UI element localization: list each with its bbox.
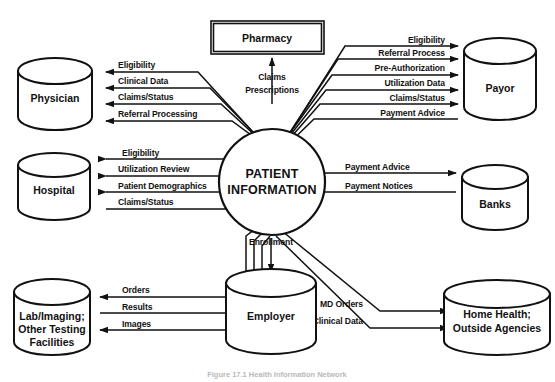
figure-caption: Figure 17.1 Health Information Network [207,370,347,379]
flow-label-homehealth-1: Clinical Data [313,316,364,326]
flow-label-payor-1: Referral Process [378,48,445,58]
flow-label-payor-5: Payment Advice [380,108,445,118]
node-banks[interactable]: Banks [462,165,528,230]
node-hospital[interactable]: Hospital [18,153,90,220]
node-label-physician: Physician [30,92,79,104]
node-label-lab-line3: Facilities [30,336,75,348]
flow-label-banks-1: Payment Notices [345,181,413,191]
node-employer[interactable]: Employer [226,269,316,354]
node-label-pharmacy: Pharmacy [242,32,292,44]
flow-label-hospital-1: Utilization Review [118,164,190,174]
node-center-patient-information[interactable]: PATIENT INFORMATION [219,129,325,235]
flow-label-payor-3: Utilization Data [385,78,446,88]
flow-label-physician-3: Referral Processing [118,109,197,119]
node-label-hospital: Hospital [33,184,75,196]
flow-group-physician: Eligibility Clinical Data Claims/Status … [106,60,262,143]
flow-group-pharmacy: Claims Prescriptions [245,58,299,104]
diagram-canvas: Eligibility Clinical Data Claims/Status … [0,0,555,382]
flow-label-lab-1: Results [122,302,153,312]
flow-label-physician-0: Eligibility [118,60,155,70]
flow-label-physician-1: Clinical Data [118,76,169,86]
flow-label-pharmacy-1: Prescriptions [245,85,299,95]
node-lab[interactable]: Lab/Imaging; Other Testing Facilities [14,279,90,355]
flow-label-lab-2: Images [122,319,151,329]
node-label-employer: Employer [247,310,295,322]
flow-label-payor-0: Eligibility [408,35,445,45]
node-physician[interactable]: Physician [18,58,92,130]
node-label-lab-line1: Lab/Imaging; [19,310,84,322]
flow-label-homehealth-0: MD Orders [320,299,363,309]
flow-label-payor-4: Claims/Status [389,93,445,103]
node-label-homehealth-line2: Outside Agencies [453,322,541,334]
flow-label-lab-0: Orders [122,285,150,295]
flow-label-hospital-0: Eligibility [122,148,159,158]
flow-label-hospital-2: Patient Demographics [118,181,207,191]
center-label-line1: PATIENT [245,167,298,181]
node-label-payor: Payor [485,82,514,94]
dataflow-diagram-svg: Eligibility Clinical Data Claims/Status … [0,0,555,382]
node-label-homehealth-line1: Home Health; [463,308,531,320]
flow-label-payor-2: Pre-Authorization [375,63,445,73]
node-payor[interactable]: Payor [464,38,536,120]
flow-group-employer: Enrollment [249,237,293,272]
flow-label-banks-0: Payment Advice [345,162,410,172]
node-pharmacy[interactable]: Pharmacy [211,21,324,54]
flow-label-hospital-3: Claims/Status [118,197,174,207]
node-homehealth[interactable]: Home Health; Outside Agencies [444,280,550,355]
flow-label-pharmacy-0: Claims [258,72,286,82]
flow-label-physician-2: Claims/Status [118,92,174,102]
node-label-lab-line2: Other Testing [18,323,85,335]
center-label-line2: INFORMATION [227,183,316,197]
node-label-banks: Banks [479,198,511,210]
